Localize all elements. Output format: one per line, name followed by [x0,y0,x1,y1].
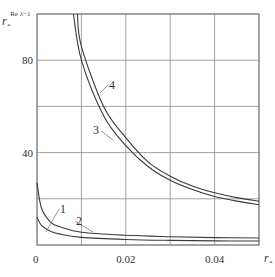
x-axis-label: r* [264,251,273,267]
y-tick-label: 40 [22,147,34,159]
curves [37,14,259,241]
tick-labels: 00.020.044080 [22,54,225,265]
x-tick-label: 0.04 [205,253,225,265]
curve-label-leaders [46,85,113,232]
curve-label-1: 1 [60,202,66,216]
y-axis-label: r*Re λ−1 [2,10,31,30]
leader-line-1 [46,209,59,232]
axis-labels: r*Re λ−1r* [2,10,273,267]
curve-2 [37,183,259,238]
leader-line-4 [100,85,108,93]
chart: 00.020.044080 1234 r*Re λ−1r* [0,0,275,277]
grid-lines [37,14,259,245]
curve-3 [73,14,259,205]
curve-label-2: 2 [76,214,82,228]
curve-label-3: 3 [93,123,99,137]
curve-4 [77,14,259,201]
plot-frame [37,14,259,245]
curve-label-4: 4 [109,78,115,92]
y-tick-label: 80 [22,54,34,66]
x-tick-label: 0 [33,253,39,265]
leader-line-3 [101,131,113,140]
x-tick-label: 0.02 [116,253,135,265]
